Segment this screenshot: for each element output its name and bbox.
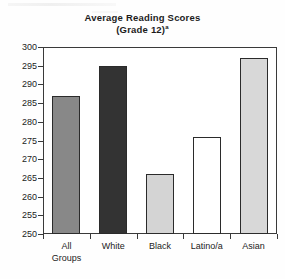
y-axis-tick-label: 265 — [0, 173, 37, 182]
x-axis-category-label-line1: All — [61, 241, 71, 251]
x-axis-category-label-line1: Black — [149, 241, 171, 251]
y-axis-labels: 300295290285280275270265260255250 — [0, 47, 37, 234]
scan-artifact — [8, 3, 116, 6]
chart-title: Average Reading Scores — [0, 12, 285, 24]
bar — [193, 137, 221, 234]
y-axis-tick-label: 250 — [0, 230, 37, 239]
x-axis-category-label: Latino/a — [183, 240, 230, 252]
y-axis-tick-label: 295 — [0, 61, 37, 70]
x-axis-labels: AllGroupsWhiteBlackLatino/aAsian — [43, 240, 277, 276]
y-axis-tick-label: 275 — [0, 136, 37, 145]
x-axis-tick — [90, 234, 91, 239]
y-axis-tick-label: 270 — [0, 155, 37, 164]
bar — [52, 96, 80, 234]
y-axis-tick-label: 290 — [0, 80, 37, 89]
y-axis-tick — [38, 178, 43, 179]
y-axis-tick — [38, 47, 43, 48]
x-axis-category-label-line2: Groups — [43, 252, 90, 264]
bar — [99, 66, 127, 234]
y-axis-tick — [38, 159, 43, 160]
y-axis-tick-label: 260 — [0, 192, 37, 201]
bar — [240, 58, 268, 234]
x-axis-tick — [183, 234, 184, 239]
y-axis-tick — [38, 122, 43, 123]
x-axis-category-label: Black — [137, 240, 184, 252]
y-axis-tick — [38, 103, 43, 104]
x-axis-category-label-line1: Asian — [242, 241, 265, 251]
y-axis-tick-label: 255 — [0, 211, 37, 220]
bars-layer — [43, 47, 277, 234]
chart-subtitle-text: (Grade 12) — [116, 24, 165, 35]
x-axis-tick — [230, 234, 231, 239]
x-axis-tick — [137, 234, 138, 239]
chart-figure: Average Reading Scores (Grade 12)a 30029… — [0, 0, 285, 279]
y-axis-tick — [38, 84, 43, 85]
y-axis-tick — [38, 66, 43, 67]
x-axis-category-label: White — [90, 240, 137, 252]
chart-subtitle: (Grade 12)a — [0, 24, 285, 36]
x-axis-tick — [43, 234, 44, 239]
x-axis-category-label-line1: Latino/a — [191, 241, 223, 251]
y-axis-tick — [38, 215, 43, 216]
y-axis-tick-label: 285 — [0, 99, 37, 108]
x-axis-tick — [277, 234, 278, 239]
footnote-marker: a — [165, 24, 169, 30]
chart-title-block: Average Reading Scores (Grade 12)a — [0, 12, 285, 36]
y-axis-tick-label: 300 — [0, 43, 37, 52]
y-axis-tick — [38, 197, 43, 198]
x-axis-category-label: Asian — [230, 240, 277, 252]
x-axis-category-label-line1: White — [102, 241, 125, 251]
y-axis-tick-label: 280 — [0, 117, 37, 126]
x-axis-category-label: AllGroups — [43, 240, 90, 264]
y-axis-tick — [38, 141, 43, 142]
bar — [146, 174, 174, 234]
